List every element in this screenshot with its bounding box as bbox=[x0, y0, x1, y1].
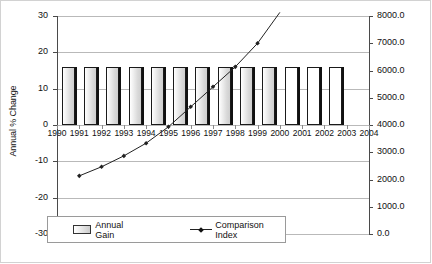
right-axis-tick-label: 2000.0 bbox=[377, 174, 417, 184]
right-axis-tick-label: 0.0 bbox=[377, 228, 417, 238]
legend-item-comparison-index: Comparison Index bbox=[190, 220, 285, 240]
right-axis-tick-label: 4000.0 bbox=[377, 119, 417, 129]
legend-label-annual-gain: Annual Gain bbox=[95, 220, 142, 240]
right-axis-tick bbox=[369, 43, 373, 44]
left-axis-tick-label: -20 bbox=[22, 192, 48, 202]
left-axis-tick-label: -10 bbox=[22, 155, 48, 165]
plot-area bbox=[57, 16, 369, 234]
right-axis-tick-label: 1000.0 bbox=[377, 201, 417, 211]
line-marker bbox=[77, 174, 82, 179]
right-axis-tick-label: 8000.0 bbox=[377, 10, 417, 20]
line-diamond-icon bbox=[190, 226, 211, 233]
chart-container: Annual % Change Comparable Index Value 3… bbox=[0, 0, 432, 264]
right-axis-tick bbox=[369, 16, 373, 17]
right-axis-tick-label: 5000.0 bbox=[377, 92, 417, 102]
right-axis-tick bbox=[369, 234, 373, 235]
right-axis-tick-label: 7000.0 bbox=[377, 37, 417, 47]
right-axis-tick bbox=[369, 180, 373, 181]
chart-legend: Annual Gain Comparison Index bbox=[47, 216, 286, 243]
line-series-comparison-index bbox=[57, 16, 369, 234]
right-axis-tick bbox=[369, 71, 373, 72]
line-marker bbox=[99, 165, 104, 170]
left-axis-tick-label: -30 bbox=[22, 228, 48, 238]
line-marker bbox=[122, 154, 127, 159]
left-axis-tick-label: 10 bbox=[22, 83, 48, 93]
right-axis-tick-label: 3000.0 bbox=[377, 146, 417, 156]
left-axis-tick-label: 20 bbox=[22, 46, 48, 56]
left-axis-tick-label: 30 bbox=[22, 10, 48, 20]
line-path bbox=[79, 12, 280, 176]
right-axis-tick-label: 6000.0 bbox=[377, 65, 417, 75]
bar-swatch-icon bbox=[73, 225, 91, 234]
legend-item-annual-gain: Annual Gain bbox=[73, 220, 142, 240]
x-axis-tick bbox=[369, 125, 370, 129]
legend-label-comparison-index: Comparison Index bbox=[215, 220, 285, 240]
left-axis-title: Annual % Change bbox=[8, 61, 18, 181]
right-axis-tick bbox=[369, 98, 373, 99]
right-axis-tick bbox=[369, 152, 373, 153]
right-axis-tick bbox=[369, 207, 373, 208]
